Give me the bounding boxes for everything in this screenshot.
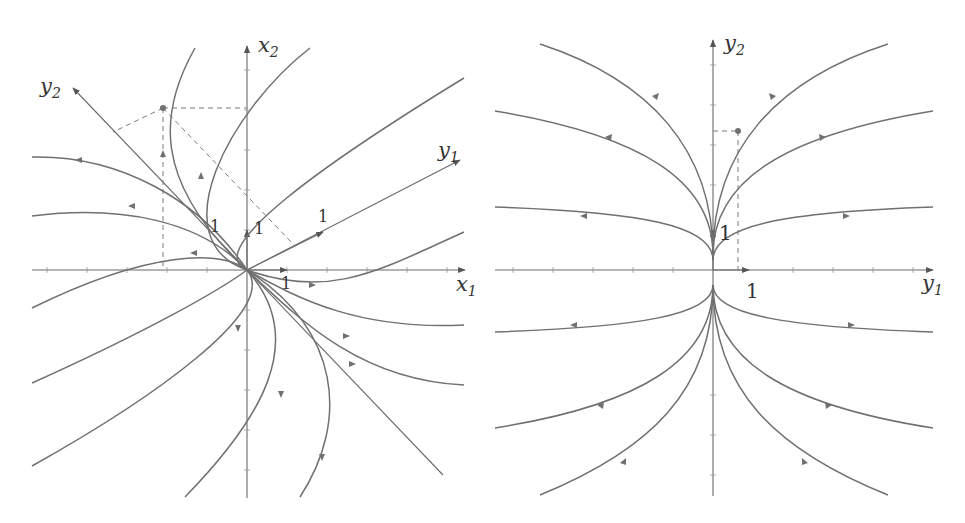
x2-unit-label: 1 <box>254 219 264 238</box>
sample-point <box>160 105 166 111</box>
left-phase-portrait: x2 x1 y1 y2 1 1 1 1 <box>32 33 477 498</box>
y2-unit-label: 1 <box>210 217 220 236</box>
y1-unit-label: 1 <box>746 279 759 303</box>
y2-unit-label: 1 <box>719 221 732 245</box>
y1-axis-label: y1 <box>921 271 943 298</box>
projection-dashes-right <box>713 131 738 270</box>
projection-dashes <box>113 108 293 270</box>
phase-portraits: x2 x1 y1 y2 1 1 1 1 <box>0 0 965 523</box>
diagram-canvas: x2 x1 y1 y2 1 1 1 1 <box>0 0 965 523</box>
y2-eigen-axis <box>73 88 443 475</box>
y2-axis-label: y2 <box>39 74 61 101</box>
x2-axis-label: x2 <box>258 33 279 60</box>
x1-unit-label: 1 <box>281 274 291 293</box>
y1-unit-label: 1 <box>318 207 328 226</box>
right-phase-portrait: y2 y1 1 1 <box>495 31 943 496</box>
x1-axis-label: x1 <box>456 272 477 299</box>
y1-axis-label: y1 <box>437 138 459 165</box>
sample-point-right <box>735 128 741 134</box>
y2-axis-label: y2 <box>723 31 745 58</box>
